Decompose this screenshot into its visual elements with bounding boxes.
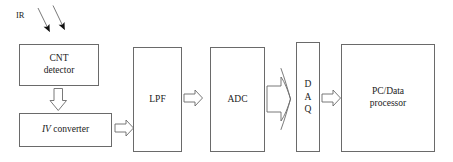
lpf-to-adc-arrow	[184, 90, 203, 106]
block-pc-data-processor-line-2: processor	[370, 98, 406, 110]
adc-to-daq-bus-arrow	[267, 69, 291, 130]
block-iv-converter-label: IV converter	[42, 124, 89, 136]
block-adc-label: ADC	[227, 94, 247, 106]
block-iv-converter: IV converter	[19, 113, 112, 147]
block-cnt-detector: CNT detector	[19, 44, 99, 86]
block-adc: ADC	[210, 47, 265, 152]
ir-ray-1-arrow	[38, 8, 50, 32]
daq-to-pc-arrow	[322, 90, 341, 106]
block-cnt-detector-line-1: CNT	[50, 53, 69, 65]
block-daq-letter-3: Q	[305, 103, 312, 116]
block-daq-letter-1: D	[305, 78, 312, 91]
block-pc-data-processor: PC/Data processor	[341, 44, 435, 152]
block-diagram-canvas: IR CNT detector IV converter LPF ADC D A…	[0, 0, 453, 162]
block-lpf: LPF	[133, 47, 182, 152]
block-iv-converter-italic-prefix: IV	[42, 124, 51, 134]
block-lpf-label: LPF	[149, 94, 165, 106]
block-cnt-detector-line-2: detector	[44, 65, 75, 77]
block-pc-data-processor-line-1: PC/Data	[372, 86, 404, 98]
iv-to-lpf-arrow	[115, 120, 134, 136]
block-daq: D A Q	[296, 42, 320, 152]
ir-input-label: IR	[16, 10, 25, 20]
cnt-to-iv-arrow	[50, 89, 67, 111]
block-iv-converter-plain-rest: converter	[51, 124, 89, 134]
block-daq-letter-2: A	[305, 91, 312, 104]
ir-ray-2-arrow	[53, 6, 65, 30]
